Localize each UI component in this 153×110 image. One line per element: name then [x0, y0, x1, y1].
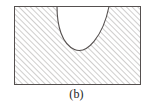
- hatched-area: [14, 6, 141, 85]
- figure-container: (b): [0, 0, 153, 110]
- figure-caption: (b): [0, 86, 153, 102]
